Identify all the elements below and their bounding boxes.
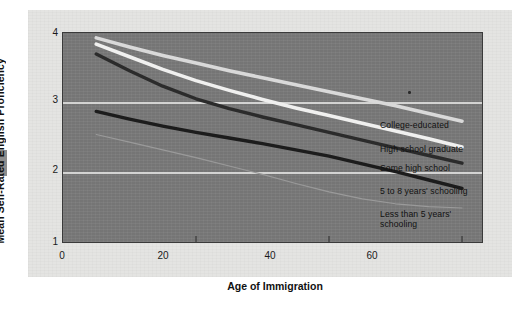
x-axis-title: Age of Immigration	[150, 280, 400, 292]
y-tick-label-2: 2	[40, 164, 58, 175]
y-axis-title: Mean Self-Rated English Proficiency	[0, 58, 6, 244]
legend-label-lessthan5: Less than 5 years' schooling	[380, 209, 451, 229]
x-tick-label-0: 0	[49, 250, 75, 261]
scan-speck-artifact	[408, 91, 411, 94]
x-tick-label-40: 40	[257, 250, 283, 261]
x-tick-label-60: 60	[359, 250, 385, 261]
chart-page: Mean Self-Rated English Proficiency 4 3 …	[0, 0, 517, 309]
legend-label-college: College-educated	[380, 120, 449, 130]
legend-label-hsgrad: High school graduate	[380, 144, 463, 154]
legend-label-5to8: 5 to 8 years' schooling	[380, 186, 468, 196]
y-tick-label-4: 4	[40, 27, 58, 38]
series-line-1	[96, 44, 462, 147]
y-tick-label-3: 3	[40, 94, 58, 105]
y-tick-label-1: 1	[40, 236, 58, 247]
legend-label-somehs: Some high school	[380, 163, 450, 173]
x-tick-label-20: 20	[150, 250, 176, 261]
